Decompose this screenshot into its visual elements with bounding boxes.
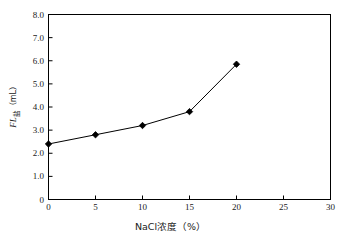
y-axis-title: FL盐（mL） xyxy=(7,55,21,155)
x-axis-title: NaCl浓度（%） xyxy=(0,219,341,233)
x-axis-tick-labels: 051015202530 xyxy=(0,0,341,242)
x-tick-label: 5 xyxy=(81,203,111,212)
y-axis-title-subscript: 盐 xyxy=(13,110,20,117)
x-tick-label: 0 xyxy=(34,203,64,212)
y-axis-title-unit: （mL） xyxy=(9,82,18,110)
x-tick-label: 20 xyxy=(222,203,252,212)
x-tick-label: 30 xyxy=(316,203,341,212)
x-tick-label: 25 xyxy=(269,203,299,212)
chart-figure: 01.02.03.04.05.06.07.08.0 051015202530 F… xyxy=(0,0,341,242)
x-tick-label: 10 xyxy=(128,203,158,212)
y-axis-title-symbol: FL xyxy=(8,117,18,128)
x-tick-label: 15 xyxy=(175,203,205,212)
